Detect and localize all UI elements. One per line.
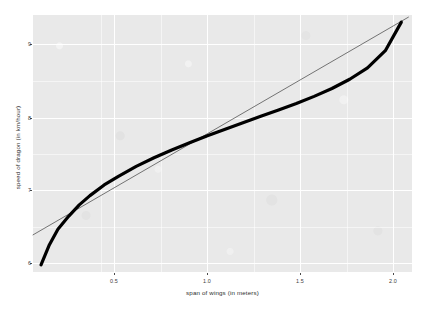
xtick-mark <box>393 273 394 275</box>
plot-panel <box>33 15 412 272</box>
plot-series-svg <box>33 15 412 272</box>
ytick-label: 6 <box>19 260 31 266</box>
chart-container: 0.5 1.0 1.5 2.0 6 7 8 9 span of wings (i… <box>0 0 426 310</box>
xtick-mark <box>207 273 208 275</box>
ytick-label: 9 <box>19 41 31 47</box>
xtick-label: 2.0 <box>389 278 397 284</box>
series-smooth-fit <box>41 22 401 265</box>
xtick-label: 1.0 <box>203 278 211 284</box>
series-linear-trend <box>33 17 408 235</box>
xtick-mark <box>114 273 115 275</box>
xtick-label: 1.5 <box>296 278 304 284</box>
ytick-label: 7 <box>19 187 31 193</box>
gridline-minor-horizontal <box>33 8 412 9</box>
xtick-label: 0.5 <box>110 278 118 284</box>
x-axis-title: span of wings (in meters) <box>33 289 412 296</box>
xtick-mark <box>300 273 301 275</box>
y-axis-title: speed of dragon (in km/hour) <box>14 82 21 212</box>
ytick-label: 8 <box>19 115 31 121</box>
